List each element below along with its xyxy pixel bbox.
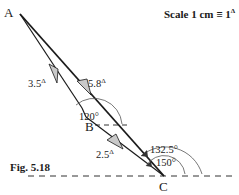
angle-label-c-inner: 150° [156,158,176,169]
arrow-bc-icon [107,134,123,149]
arrow-ab-icon [49,64,58,83]
length-ab-value: 3.5 [28,78,41,89]
length-ab: 3.5Δ [28,79,46,90]
point-label-c: C [159,180,168,193]
scale-text: Scale 1 cm ≡ 1 [164,8,231,20]
length-bc-value: 2.5 [96,149,109,160]
length-bc: 2.5Δ [96,150,114,161]
point-label-a: A [4,6,13,19]
scale-label: Scale 1 cm ≡ 1Δ [164,9,235,20]
length-bc-unit: Δ [109,148,114,156]
length-ac: 5.8Δ [88,79,106,90]
length-ac-value: 5.8 [88,78,101,89]
length-ac-unit: Δ [101,77,106,85]
angle-label-c-outer: 132.5° [150,145,178,156]
angle-label-b: 120° [79,112,99,123]
segment-ab [20,14,82,108]
segment-ac [20,14,164,176]
scale-unit: Δ [231,7,235,15]
length-ab-unit: Δ [41,77,46,85]
figure-caption: Fig. 5.18 [10,162,50,173]
